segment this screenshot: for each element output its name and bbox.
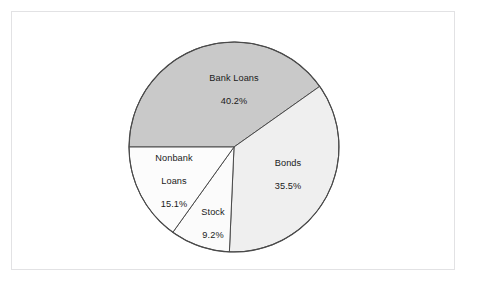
pie-chart: Bank Loans 40.2% Bonds 35.5% Stock 9.2% … [0, 0, 483, 296]
pie-slices-group [129, 42, 339, 252]
pie-chart-svg [0, 0, 483, 296]
page-root: Bank Loans 40.2% Bonds 35.5% Stock 9.2% … [0, 0, 483, 296]
